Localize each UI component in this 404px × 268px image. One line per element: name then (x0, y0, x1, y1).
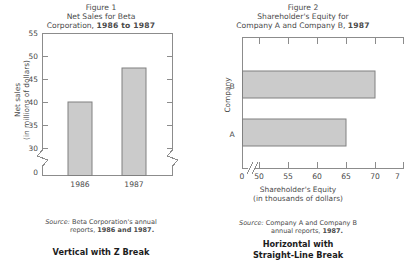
figure-1-bar-1986 (68, 102, 92, 176)
figure-2-source: Source: Company A and Company B annual r… (202, 219, 394, 235)
figure-1-right-axis-z-break (167, 150, 178, 166)
figure-2-xtick-50: 50 (250, 172, 268, 181)
figure-2-bar-B (243, 71, 376, 98)
figure-1-xtick-1986: 1986 (60, 180, 100, 189)
figure-2-xtick-65: 65 (337, 172, 355, 181)
figure-1-caption: Vertical with Z Break (0, 247, 202, 258)
figure-1-caption-text: Vertical with Z Break (0, 247, 202, 258)
figure-2-caption-line-2: Straight-Line Break (202, 250, 394, 261)
figure-2-caption: Horizontal with Straight-Line Break (202, 239, 394, 260)
figure-1-source-text-2: reports, (70, 226, 97, 234)
figure-1-xtick-1987: 1987 (114, 180, 154, 189)
figure-2-xtick-70: 70 (366, 172, 384, 181)
figure-2-bar-A (243, 119, 347, 146)
figure-1-bar-1987 (122, 68, 146, 176)
figure-2-xtick-0: 0 (233, 172, 251, 181)
figure-2-source-line-2: annual reports, 1987. (202, 227, 394, 235)
figure-1-source-years: 1986 and 1987. (97, 226, 154, 234)
figure-2-caption-line-1: Horizontal with (202, 239, 394, 250)
figure-2-xtick-60: 60 (308, 172, 326, 181)
figure-2-source-line-1: Source: Company A and Company B (202, 219, 394, 227)
figure-2-xtick-75: 7 (395, 172, 404, 181)
figure-2-x-axis-label-line-2: (in thousands of dollars) (253, 194, 343, 203)
figure-1-left-axis-z-break (37, 150, 48, 166)
figure-1-source-text-1: Beta Corporation's annual (70, 218, 157, 226)
figure-1-panel: Figure 1 Net Sales for Beta Corporation,… (0, 0, 202, 268)
figure-2-source-text-1: Company A and Company B (264, 219, 357, 227)
figure-2-xtick-55: 55 (279, 172, 297, 181)
figure-1-source-line-1: Source: Beta Corporation's annual (0, 218, 202, 226)
figure-2-panel: Figure 2 Shareholder's Equity for Compan… (202, 0, 404, 268)
figure-2-x-axis-label: Shareholder's Equity (in thousands of do… (202, 186, 394, 203)
figure-1-source-line-2: reports, 1986 and 1987. (0, 226, 202, 234)
figure-2-source-label: Source: (239, 219, 264, 227)
figure-1-source-label: Source: (45, 218, 70, 226)
figure-1-source: Source: Beta Corporation's annual report… (0, 218, 202, 234)
figure-2-source-text-2: annual reports, (271, 227, 323, 235)
figure-2-source-years: 1987. (323, 227, 344, 235)
